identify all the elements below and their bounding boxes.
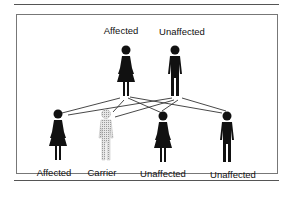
child-female-unaffected-figure xyxy=(154,112,172,163)
parent-female-affected-figure xyxy=(117,46,135,97)
parent-label-unaffected: Unaffected xyxy=(159,26,205,37)
relationship-lines xyxy=(62,97,226,117)
child-female-affected-figure xyxy=(49,110,67,161)
parent-label-affected: Affected xyxy=(104,25,139,36)
child-male-carrier-figure xyxy=(99,110,113,161)
child-male-unaffected-figure xyxy=(220,112,234,163)
parent-male-unaffected-figure xyxy=(168,46,182,97)
child-label-affected: Affected xyxy=(37,167,72,178)
child-label-unaffected-female: Unaffected xyxy=(140,168,186,179)
child-label-unaffected-male: Unaffected xyxy=(210,169,256,180)
child-label-carrier: Carrier xyxy=(87,167,116,178)
